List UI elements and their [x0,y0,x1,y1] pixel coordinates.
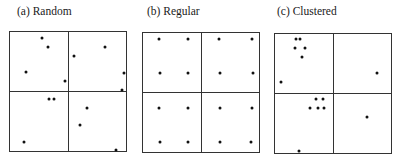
point [48,98,51,101]
point [158,107,161,110]
point [315,98,318,101]
point [251,107,254,110]
point [115,149,118,152]
point [159,72,162,75]
point [298,150,301,153]
panel-regular [142,32,260,153]
point [219,107,222,110]
point [159,141,162,144]
point [304,47,307,50]
panel-random [9,31,127,152]
point [309,107,312,110]
point [294,47,297,50]
point [317,107,320,110]
point [187,38,190,41]
point [79,124,82,127]
point [280,81,283,84]
point [123,72,126,75]
point [158,38,161,41]
point [323,107,326,110]
point [187,141,190,144]
point [187,107,190,110]
point-pattern-diagram [0,0,400,160]
point [187,72,190,75]
point [25,71,28,74]
point [121,89,124,92]
point [64,80,67,83]
point [219,141,222,144]
point [53,98,56,101]
point [73,55,76,58]
point [299,38,302,41]
point [218,38,221,41]
point [376,72,379,75]
point [322,98,325,101]
point [41,37,44,40]
point [301,56,304,59]
point [47,46,50,49]
point [86,107,89,110]
point [252,72,255,75]
point [23,141,26,144]
point [366,116,369,119]
point [250,141,253,144]
point [104,46,107,49]
panel-clustered [274,33,392,154]
point [219,72,222,75]
point [295,38,298,41]
point [251,38,254,41]
